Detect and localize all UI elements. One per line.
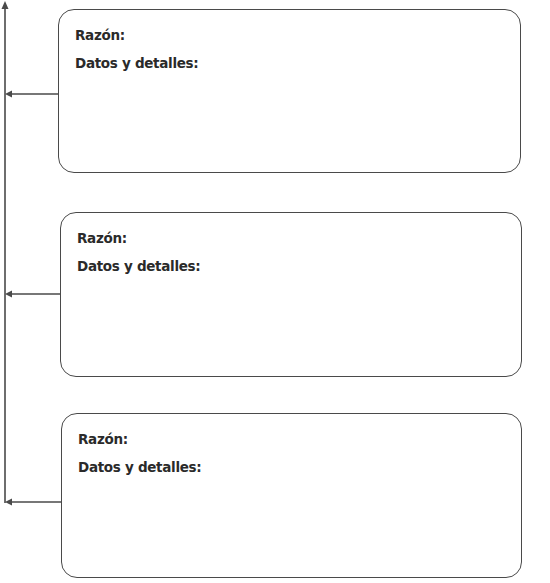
details-label: Datos y detalles: (75, 55, 198, 71)
left-arrowhead-icon (5, 291, 12, 298)
reason-label: Razón: (77, 230, 127, 246)
reason-box-2[interactable]: Razón: Datos y detalles: (60, 212, 522, 377)
details-label: Datos y detalles: (77, 258, 200, 274)
reason-label: Razón: (78, 431, 128, 447)
up-arrowhead-icon (2, 1, 9, 9)
left-arrowhead-icon (5, 499, 12, 506)
reason-box-3[interactable]: Razón: Datos y detalles: (61, 413, 522, 578)
left-arrowhead-icon (5, 91, 12, 98)
details-label: Datos y detalles: (78, 459, 201, 475)
reason-box-1[interactable]: Razón: Datos y detalles: (58, 9, 521, 173)
reason-label: Razón: (75, 27, 125, 43)
